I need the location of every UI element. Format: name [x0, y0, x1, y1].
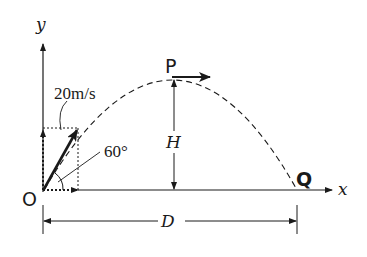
angle-leader [58, 152, 100, 182]
range-label: D [160, 211, 175, 231]
velocity-leader [60, 101, 67, 130]
landing-label: Q [296, 168, 312, 190]
origin-label: O [22, 188, 37, 210]
angle-label: 60° [104, 142, 128, 161]
x-axis-label: x [338, 179, 348, 199]
y-axis-label: y [35, 14, 46, 34]
height-label: H [165, 132, 182, 152]
peak-label: P [165, 55, 176, 77]
projectile-diagram: y x O P Q 20m/s 60° H D [0, 0, 367, 257]
velocity-label: 20m/s [54, 84, 96, 103]
